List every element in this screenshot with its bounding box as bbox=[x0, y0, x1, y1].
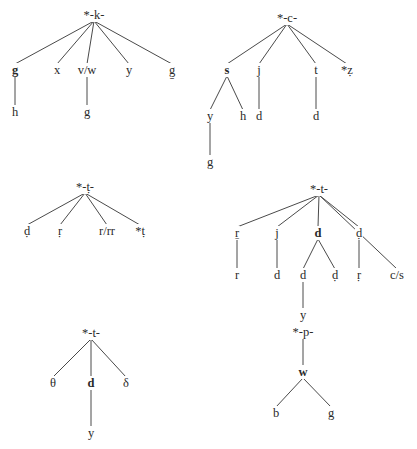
tree-edge bbox=[91, 339, 126, 377]
tree-node-label: ḍ bbox=[23, 224, 31, 238]
tree-node-label: δ bbox=[122, 376, 130, 390]
tree-edge bbox=[237, 195, 319, 227]
tree-node-label: g bbox=[83, 105, 91, 119]
tree-root-label: *-ṭ- bbox=[75, 180, 95, 194]
tree-edge bbox=[276, 378, 303, 407]
tree-node-label: d bbox=[299, 268, 307, 282]
tree-node-label: y bbox=[125, 63, 133, 77]
tree-root-label: *-k- bbox=[83, 8, 106, 22]
tree-node-label: d bbox=[273, 268, 281, 282]
tree-edge bbox=[287, 24, 316, 64]
tree-edge bbox=[277, 195, 319, 227]
tree-edge bbox=[27, 193, 85, 225]
tree-edge bbox=[319, 195, 359, 227]
tree-root-label: *-p- bbox=[292, 325, 315, 339]
tree-edge bbox=[227, 24, 287, 64]
tree-edge bbox=[303, 239, 318, 269]
tree-node-label: ṛ bbox=[356, 268, 362, 282]
tree-node-label: h bbox=[11, 105, 19, 119]
tree-edge bbox=[227, 76, 243, 110]
tree-root-label: *-c- bbox=[276, 11, 298, 25]
tree-node-label: j bbox=[274, 226, 279, 240]
tree-node-label: y bbox=[87, 426, 95, 440]
tree-node-label: t bbox=[313, 63, 318, 77]
tree-edge bbox=[53, 339, 91, 377]
tree-node-label: g bbox=[206, 155, 214, 169]
tree-node-label: j bbox=[256, 63, 261, 77]
tree-node-label: c/s bbox=[389, 268, 405, 282]
tree-node-label: v/w bbox=[77, 63, 98, 77]
tree-node-label: *ẓ bbox=[340, 63, 354, 77]
tree-node-label: w bbox=[297, 365, 308, 379]
tree-node-label: r/rr bbox=[98, 224, 116, 238]
tree-root-label: *-t- bbox=[309, 182, 329, 196]
tree-node-label: h bbox=[239, 109, 247, 123]
tree-edge bbox=[287, 24, 347, 64]
tree-edge bbox=[94, 21, 129, 64]
tree-edge bbox=[210, 76, 227, 110]
tree-node-label: ḍ bbox=[355, 226, 363, 240]
tree-edge bbox=[60, 193, 85, 225]
tree-edge bbox=[318, 239, 335, 269]
tree-node-label: g bbox=[327, 406, 335, 420]
tree-node-label: y bbox=[299, 308, 307, 322]
tree-node-label: g bbox=[11, 63, 19, 77]
tree-edge bbox=[85, 193, 107, 225]
tree-node-label: d bbox=[314, 226, 323, 240]
tree-edge bbox=[318, 195, 319, 227]
tree-node-label: b bbox=[272, 406, 280, 420]
tree-node-label: d bbox=[312, 109, 320, 123]
tree-node-label: g̱ bbox=[168, 63, 176, 77]
tree-node-label: θ bbox=[49, 376, 57, 390]
tree-edge bbox=[303, 378, 331, 407]
tree-edge bbox=[259, 24, 287, 64]
tree-node-label: *ṭ bbox=[134, 224, 146, 238]
tree-node-label: ḍ bbox=[331, 268, 339, 282]
tree-node-label: ṛ bbox=[57, 224, 63, 238]
tree-root-label: *-t- bbox=[81, 326, 101, 340]
tree-node-label: x bbox=[53, 63, 61, 77]
tree-node-label: r bbox=[234, 268, 240, 282]
tree-node-label: d bbox=[255, 109, 263, 123]
tree-node-label: s bbox=[224, 63, 231, 77]
tree-edge bbox=[85, 193, 140, 225]
tree-node-label: y bbox=[206, 109, 214, 123]
tree-edge bbox=[94, 21, 172, 64]
tree-node-label: ṟ bbox=[234, 226, 240, 240]
tree-edge bbox=[15, 21, 94, 64]
tree-node-label: d bbox=[87, 376, 96, 390]
